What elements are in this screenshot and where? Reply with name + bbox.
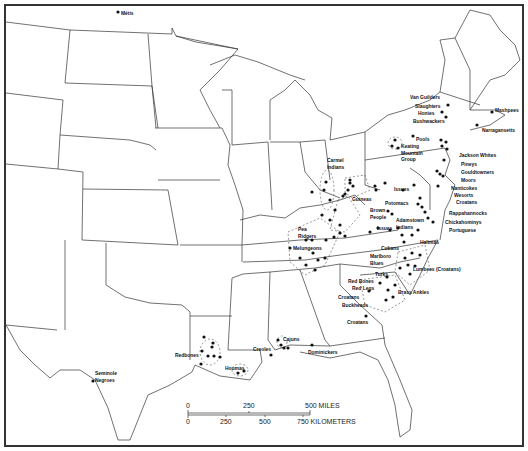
scale-miles-0: 0 (186, 402, 190, 409)
label-marlboro-blues: Marlboro Blues (370, 253, 391, 266)
label-rappahannocks: Rappahannocks (449, 210, 487, 217)
label-moors: Moors (461, 177, 476, 184)
label-red-bones: Red Bones (348, 278, 374, 285)
scale-miles-250: 250 (243, 402, 255, 409)
scale-km-500: 500 (259, 418, 271, 425)
label-portuguese: Portuguese (449, 227, 476, 234)
label-lumbees: Lumbees (Croatans) (413, 266, 461, 273)
label-brass-ankles: Brass Ankles (398, 289, 429, 296)
label-brown-people: Brown People (370, 207, 386, 220)
label-metis: Métis (121, 10, 134, 17)
label-issues-va: Issues (394, 186, 409, 193)
label-honies: Honies (418, 110, 434, 117)
label-buckheads: Buckheads (342, 302, 368, 309)
us-map-outline (0, 0, 528, 451)
label-potomacs: Potomacs (385, 200, 409, 207)
label-bushwackers: Bushwackers (413, 118, 445, 125)
state-boundaries (6, 10, 520, 440)
label-croatans-ga: Croatans (347, 319, 368, 326)
scale-miles-500: 500 MILES (305, 402, 340, 409)
scale-km-750: 750 KILOMETERS (297, 418, 356, 425)
label-wesorts: Wesorts (454, 192, 473, 199)
settlement-dots (91, 10, 493, 382)
label-red-legs: Red Legs (352, 285, 374, 292)
label-narragansetts: Narragansetts (482, 127, 515, 134)
label-keating-mountain-group: Keating Mountain Group (401, 143, 423, 163)
label-nanticokes: Nanticokes (451, 185, 477, 192)
label-cajuns: Cajuns (283, 336, 299, 343)
label-carmel-indians: Carmel Indians (327, 157, 344, 170)
label-cubans: Cubans (381, 245, 399, 252)
scale-km-0: 0 (186, 418, 190, 425)
label-slaughters: Slaughters (415, 103, 440, 110)
label-turks: Turks (375, 271, 388, 278)
label-redbones: Redbones (175, 352, 199, 359)
label-chickahominys: Chickahominys (445, 219, 481, 226)
label-adamstown-indians: Adamstown Indians (396, 217, 424, 230)
label-dominickers: Dominickers (308, 349, 338, 356)
scale-km-250: 250 (220, 418, 232, 425)
label-croatans-sc: Croatans (338, 294, 359, 301)
label-creoles: Creoles (253, 346, 271, 353)
label-seminole-negroes: Seminole Negroes (95, 370, 117, 383)
label-guineas: Guineas (352, 196, 371, 203)
label-pea-ridgers: Pea Ridgers (298, 226, 316, 239)
label-pineys: Pineys (461, 161, 477, 168)
label-gouldtowners: Gouldtowners (461, 169, 494, 176)
label-croatans-md: Croatans (456, 199, 477, 206)
label-mashpees: Mashpees (495, 107, 519, 114)
label-van-guilders: Van Guilders (410, 94, 440, 101)
label-issues-ky: Issues (377, 225, 392, 232)
label-pools: Pools (416, 136, 429, 143)
label-melungeons: Melungeons (293, 245, 322, 252)
scale-bar (188, 410, 310, 418)
group-enclosures (200, 137, 430, 376)
label-houmas: Houmas (225, 365, 244, 372)
label-halimas: Halimas (420, 239, 439, 246)
label-jackson-whites: Jackson Whites (459, 152, 496, 159)
